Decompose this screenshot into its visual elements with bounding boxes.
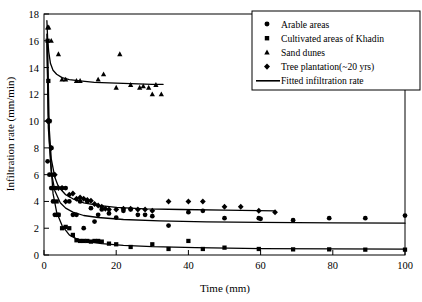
x-tick-label: 60 xyxy=(255,260,266,271)
data-point xyxy=(150,91,155,96)
data-point xyxy=(56,213,60,217)
legend-marker-square xyxy=(265,36,269,40)
data-point xyxy=(291,247,295,251)
data-point xyxy=(258,216,263,221)
data-point xyxy=(222,204,228,210)
data-point xyxy=(71,233,75,237)
data-point xyxy=(45,159,50,164)
data-point xyxy=(186,198,192,204)
data-point xyxy=(166,198,172,204)
y-tick-label: 0 xyxy=(34,250,39,261)
data-point xyxy=(150,214,155,219)
data-point xyxy=(92,219,97,224)
data-point xyxy=(59,185,65,191)
data-point xyxy=(81,226,86,231)
data-point xyxy=(146,85,151,90)
series-sand-dunes xyxy=(45,25,164,97)
data-point xyxy=(186,210,191,215)
data-point xyxy=(55,199,59,203)
data-point xyxy=(74,212,79,217)
data-point xyxy=(256,208,262,214)
data-point xyxy=(56,51,61,56)
data-point xyxy=(166,247,170,251)
x-axis-title: Time (mm) xyxy=(200,282,250,295)
data-point xyxy=(135,212,140,217)
data-point xyxy=(96,77,101,82)
x-tick-label: 0 xyxy=(41,260,46,271)
data-point xyxy=(200,198,206,204)
data-point xyxy=(46,79,50,83)
data-point xyxy=(117,51,122,56)
data-point xyxy=(128,206,134,212)
data-point xyxy=(107,241,111,245)
data-point xyxy=(166,223,171,228)
data-point xyxy=(96,212,101,217)
x-tick-label: 80 xyxy=(328,260,339,271)
y-tick-label: 12 xyxy=(29,89,40,100)
data-point xyxy=(363,216,368,221)
data-point xyxy=(272,209,278,215)
x-tick-label: 20 xyxy=(111,260,122,271)
data-point xyxy=(159,91,164,96)
y-tick-label: 4 xyxy=(34,196,40,207)
fitted-curve xyxy=(47,34,275,211)
y-tick-label: 16 xyxy=(29,36,40,47)
data-point xyxy=(327,216,332,221)
series-arable-areas xyxy=(45,159,407,231)
data-point xyxy=(403,248,407,252)
data-point xyxy=(63,198,69,204)
y-tick-label: 6 xyxy=(34,170,39,181)
data-point xyxy=(114,85,119,90)
data-point xyxy=(150,242,154,246)
x-tick-label: 100 xyxy=(397,260,413,271)
data-point xyxy=(142,206,148,212)
data-point xyxy=(114,215,119,220)
legend: Arable areasCultivated areas of KhadinSa… xyxy=(252,11,420,90)
data-point xyxy=(143,212,148,217)
data-point xyxy=(403,213,408,218)
infiltration-rate-chart: 020406080100024681012141618 Arable areas… xyxy=(0,0,422,302)
data-point xyxy=(363,248,367,252)
legend-item-label: Arable areas xyxy=(281,19,329,30)
y-axis-title: Infiltration rate (mm/min) xyxy=(4,77,17,192)
y-tick-label: 14 xyxy=(29,63,40,74)
legend-item-label: Cultivated areas of Khadin xyxy=(281,33,384,44)
y-tick-label: 8 xyxy=(34,143,39,154)
x-tick-label: 40 xyxy=(183,260,194,271)
data-point xyxy=(114,242,118,246)
data-point xyxy=(186,239,190,243)
data-point xyxy=(222,216,227,221)
data-point xyxy=(129,245,133,249)
data-point xyxy=(222,246,226,250)
data-point xyxy=(89,206,94,211)
data-point xyxy=(128,82,133,87)
data-point xyxy=(200,208,205,213)
data-point xyxy=(201,247,205,251)
data-point xyxy=(135,206,141,212)
chart-canvas: 020406080100024681012141618 Arable areas… xyxy=(0,0,422,302)
y-tick-label: 2 xyxy=(34,223,39,234)
data-point xyxy=(257,247,261,251)
data-point xyxy=(100,239,104,243)
data-point xyxy=(238,204,244,210)
legend-item-label: Sand dunes xyxy=(281,47,325,58)
data-point xyxy=(101,71,106,76)
legend-marker-circle xyxy=(265,22,270,27)
data-point xyxy=(67,226,71,230)
legend-item-label: Tree plantation(~20 yrs) xyxy=(281,61,374,73)
y-tick-label: 10 xyxy=(29,116,40,127)
data-point xyxy=(291,218,296,223)
y-tick-label: 18 xyxy=(29,9,40,20)
data-point xyxy=(327,247,331,251)
legend-item-label: Fitted infiltration rate xyxy=(281,75,364,86)
